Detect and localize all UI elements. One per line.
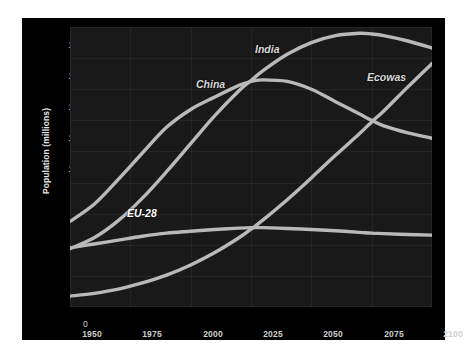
x-tick-label: 1950 xyxy=(67,329,117,339)
plot-area: India China Ecowas EU-28 xyxy=(70,27,432,307)
x-tick-label: 2050 xyxy=(308,329,358,339)
series-label-china: China xyxy=(196,78,225,90)
series-line-ecowas xyxy=(70,64,432,297)
series-label-india: India xyxy=(255,43,280,55)
x-tick-label: 2025 xyxy=(248,329,298,339)
series-line-china xyxy=(70,80,432,222)
chart-frame: Population (millions) 1800 1600 1400 120… xyxy=(22,18,445,340)
y-tick-label: 0 xyxy=(44,320,88,329)
series-label-ecowas: Ecowas xyxy=(367,71,406,83)
series-label-eu28: EU-28 xyxy=(127,207,157,219)
x-tick-label: 2100 xyxy=(428,329,468,339)
x-tick-label: 2000 xyxy=(188,329,238,339)
x-tick-label: 1975 xyxy=(127,329,177,339)
series-line-india xyxy=(70,33,432,249)
x-axis-tick-labels: 1950 1975 2000 2025 2050 2075 2100 xyxy=(92,329,454,343)
x-axis-title: Year xyxy=(412,343,430,353)
x-tick-label: 2075 xyxy=(369,329,419,339)
series-lines xyxy=(70,27,432,307)
